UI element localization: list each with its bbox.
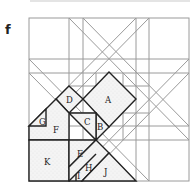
label-I: I — [77, 171, 80, 181]
dissection-diagram: A B C D E F G H I J K — [0, 0, 194, 190]
label-J: J — [103, 167, 108, 177]
label-D: D — [66, 95, 73, 105]
label-G: G — [39, 117, 46, 127]
label-K: K — [44, 157, 51, 167]
label-F: F — [53, 125, 59, 135]
label-C: C — [84, 117, 91, 127]
label-H: H — [85, 163, 92, 173]
label-E: E — [77, 149, 83, 159]
label-A: A — [104, 95, 112, 105]
label-B: B — [97, 122, 103, 132]
